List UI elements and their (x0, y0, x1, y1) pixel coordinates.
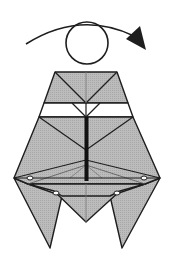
diagram-canvas (0, 0, 182, 271)
center-spine (85, 117, 89, 181)
origami-diagram: Turn the model over (0, 0, 182, 271)
arrowhead-icon (126, 26, 146, 50)
turn-over-circle-icon (66, 22, 108, 64)
turn-over-symbol (26, 22, 146, 64)
curved-arrow-icon (26, 25, 134, 44)
